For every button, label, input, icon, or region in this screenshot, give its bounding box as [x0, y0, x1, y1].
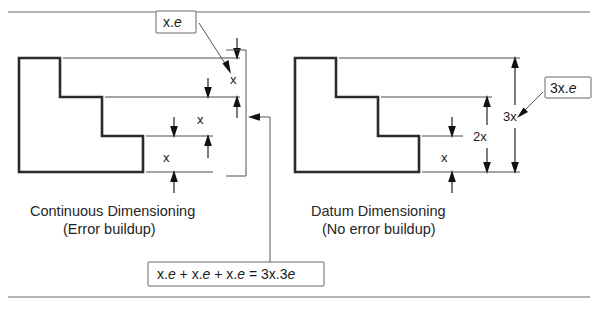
- stepped-part-outline-right: [295, 58, 419, 172]
- formula-leader-arrow: [248, 113, 260, 121]
- formula-leader-line: [257, 117, 270, 264]
- dimension-3x-right: 3x: [503, 56, 519, 174]
- caption-left-line2: (Error buildup): [63, 221, 156, 237]
- dimension-label-left-1: x: [230, 72, 237, 87]
- callout-label-xe: x.e: [163, 14, 182, 30]
- left-panel-continuous-dimensioning: x x x x.e Continuous Dimensioning (Error: [19, 11, 246, 237]
- caption-left-line1: Continuous Dimensioning: [30, 203, 195, 219]
- callout-3xe: 3x.e: [517, 77, 591, 118]
- callout-xe: x.e: [156, 11, 231, 74]
- right-panel-datum-dimensioning: x 2x 3x 3x.e Datum Dimensioning (No er: [295, 56, 591, 237]
- dimension-label-right-x: x: [441, 150, 448, 165]
- dimension-2x-right: 2x: [473, 95, 491, 174]
- dimensioning-comparison-figure: x x x x.e Continuous Dimensioning (Error: [0, 0, 598, 309]
- dimension-label-right-3x: 3x: [503, 109, 517, 124]
- dimension-chain-2-left: x: [170, 112, 212, 158]
- dimension-label-left-3: x: [163, 150, 170, 165]
- dimension-label-right-2x: 2x: [473, 129, 487, 144]
- caption-right-line2: (No error buildup): [322, 221, 436, 237]
- formula-text: x.e + x.e + x.e = 3x.3e: [157, 266, 295, 282]
- callout-label-3xe: 3x.e: [550, 80, 577, 96]
- dimension-x-right: x: [441, 117, 456, 193]
- stepped-part-outline-left: [19, 58, 143, 172]
- caption-right-line1: Datum Dimensioning: [311, 203, 446, 219]
- dimension-label-left-2: x: [197, 112, 204, 127]
